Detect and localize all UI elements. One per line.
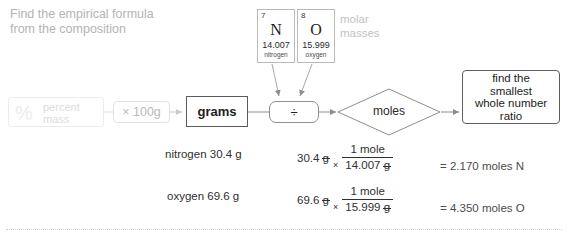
final-ratio-box: find the smallest whole number ratio [462,70,560,124]
conversion-fraction: 1 mole 14.007 g [342,143,393,172]
divide-box: ÷ [269,101,319,123]
calc-result-oxygen: = 4.350 moles O [440,202,525,214]
percent-icon: % [15,101,33,125]
page-title: Find the empirical formula from the comp… [10,7,250,37]
element-card-nitrogen: 7 N 14.007 nitrogen [257,9,295,63]
element-molar-mass: 14.007 [258,40,294,50]
element-atomic-number: 8 [301,11,305,20]
moles-diamond: moles [337,88,441,136]
calc-quantity: 69.6 g [297,194,329,206]
element-card-oxygen: 8 O 15.999 oxygen [297,9,335,63]
moles-label: moles [337,104,441,118]
bottom-divider [6,229,562,231]
grams-box: grams [186,96,248,127]
unit-cancelled-grams: g [323,152,329,164]
element-symbol: N [258,21,294,38]
multiply-symbol: × [333,202,338,214]
unit-cancelled-grams: g [384,201,390,214]
percent-mass-label: percent mass [43,102,80,125]
multiply-100g-box: × 100g [113,101,170,123]
calc-quantity: 30.4 g [297,152,329,164]
molar-masses-label: molar masses [340,12,380,40]
percent-mass-box: % percent mass [8,97,104,127]
calc-label-oxygen: oxygen 69.6 g [167,190,239,202]
empirical-formula-diagram: Find the empirical formula from the comp… [0,0,570,241]
element-molar-mass: 15.999 [298,40,334,50]
fraction-denominator: 14.007 g [342,158,393,172]
element-name: oxygen [298,51,334,59]
element-name: nitrogen [258,51,294,59]
fraction-numerator: 1 mole [347,185,388,199]
calc-result-nitrogen: = 2.170 moles N [440,160,524,172]
calc-expression-oxygen: 69.6 g × 1 mole 15.999 g [297,185,393,214]
element-symbol: O [298,21,334,38]
unit-cancelled-grams: g [323,194,329,206]
multiply-symbol: × [333,160,338,172]
calc-expression-nitrogen: 30.4 g × 1 mole 14.007 g [297,143,393,172]
element-atomic-number: 7 [261,11,265,20]
fraction-denominator: 15.999 g [342,200,393,214]
unit-cancelled-grams: g [384,159,390,172]
conversion-fraction: 1 mole 15.999 g [342,185,393,214]
calc-label-nitrogen: nitrogen 30.4 g [165,148,242,160]
fraction-numerator: 1 mole [347,143,388,157]
